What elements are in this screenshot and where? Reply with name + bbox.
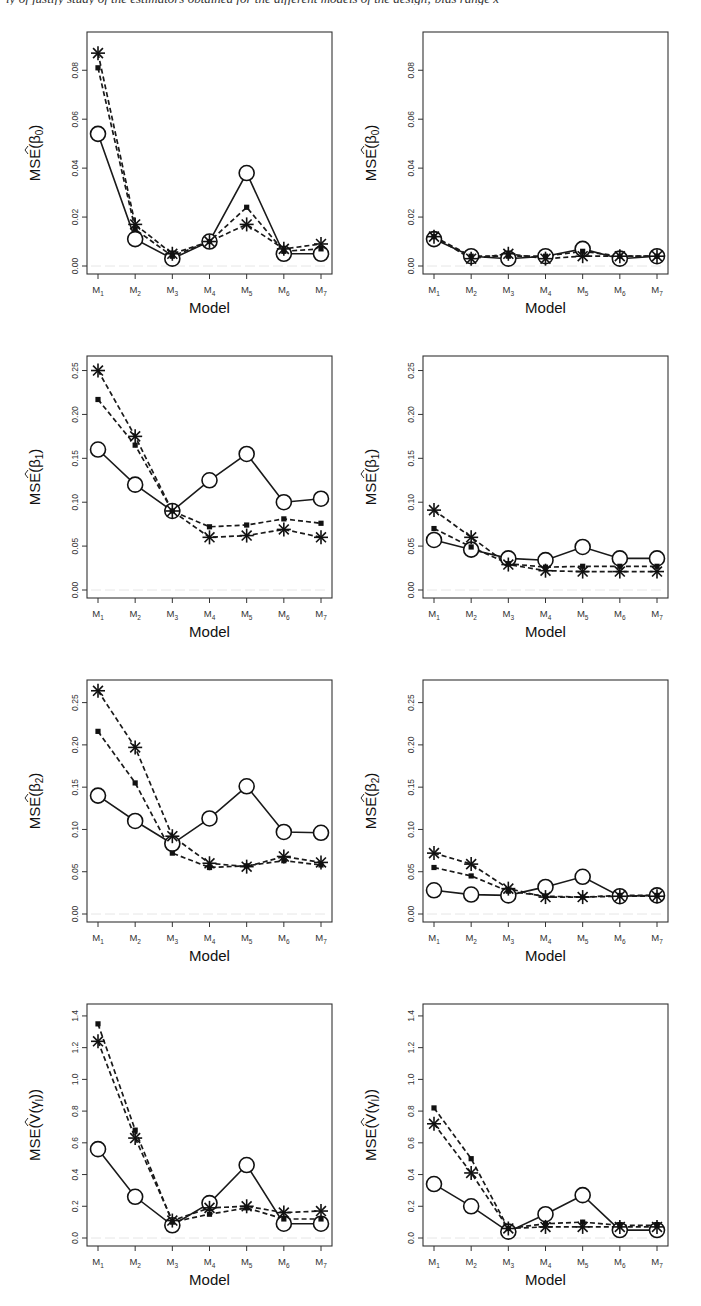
y-tick-label: 1.4 <box>70 1010 80 1022</box>
x-tick-label: M1 <box>92 1256 104 1269</box>
x-axis-title: Model <box>525 623 566 640</box>
asterisk-marker-icon <box>613 1220 627 1234</box>
y-tick-label: 0.20 <box>70 736 80 753</box>
circle-marker-icon <box>314 491 329 506</box>
square-marker-icon <box>244 205 249 210</box>
circle-marker-icon <box>276 824 291 839</box>
y-axis-title: MSE(β0) <box>26 125 45 182</box>
y-tick-label: 0.15 <box>406 779 416 796</box>
line-chart: 0.000.050.100.150.200.25M1M2M3M4M5M6M7Mo… <box>346 664 686 982</box>
x-axis: M1M2M3M4M5M6M7 <box>428 598 663 621</box>
y-tick-label: 0.05 <box>70 538 80 555</box>
x-tick-label: M3 <box>167 1256 179 1269</box>
y-tick-label: 1.0 <box>70 1073 80 1085</box>
y-tick-label: 0.15 <box>406 450 416 467</box>
markers-circle-solid <box>91 442 329 518</box>
y-axis: 0.000.050.100.150.200.25 <box>406 694 423 922</box>
x-tick-label: M4 <box>540 1256 552 1269</box>
circle-marker-icon <box>464 1199 479 1214</box>
line-chart: 0.00.20.40.60.81.01.21.4M1M2M3M4M5M6M7Mo… <box>10 988 350 1306</box>
y-tick-label: 1.4 <box>406 1010 416 1022</box>
x-tick-label: M5 <box>577 608 589 621</box>
y-axis: 0.00.20.40.60.81.01.21.4 <box>406 1010 423 1244</box>
circle-marker-icon <box>239 166 254 181</box>
x-tick-label: M6 <box>614 1256 626 1269</box>
line-chart: 0.000.020.040.060.08M1M2M3M4M5M6M7ModelM… <box>346 16 686 334</box>
panel-beta0-right: 0.000.020.040.060.08M1M2M3M4M5M6M7ModelM… <box>346 16 686 334</box>
x-tick-label: M6 <box>614 284 626 297</box>
markers-circle-solid <box>91 1142 329 1233</box>
y-tick-label: 0.0 <box>70 1232 80 1244</box>
asterisk-marker-icon <box>203 1201 217 1215</box>
x-tick-label: M7 <box>315 608 327 621</box>
asterisk-marker-icon <box>427 230 441 244</box>
x-tick-label: M3 <box>167 284 179 297</box>
asterisk-marker-icon <box>240 217 254 231</box>
asterisk-marker-icon <box>576 890 590 904</box>
circle-marker-icon <box>91 788 106 803</box>
asterisk-marker-icon <box>91 364 105 378</box>
x-tick-label: M1 <box>92 932 104 945</box>
y-tick-label: 0.25 <box>406 362 416 379</box>
square-marker-icon <box>469 544 474 549</box>
x-tick-label: M7 <box>651 932 663 945</box>
x-tick-label: M3 <box>167 932 179 945</box>
x-axis-title: Model <box>189 1271 230 1288</box>
asterisk-marker-icon <box>165 504 179 518</box>
x-tick-label: M2 <box>465 608 477 621</box>
x-tick-label: M5 <box>241 284 253 297</box>
y-tick-label: 0.20 <box>406 406 416 423</box>
y-tick-label: 0.06 <box>70 111 80 128</box>
square-marker-icon <box>469 1156 474 1161</box>
x-tick-label: M1 <box>428 1256 440 1269</box>
circle-marker-icon <box>91 1142 106 1157</box>
line-chart: 0.00.20.40.60.81.01.21.4M1M2M3M4M5M6M7Mo… <box>346 988 686 1306</box>
y-tick-label: 0.00 <box>70 905 80 922</box>
y-tick-label: 0.00 <box>70 581 80 598</box>
circle-marker-icon <box>427 1177 442 1192</box>
circle-marker-icon <box>650 551 665 566</box>
y-tick-label: 0.05 <box>406 863 416 880</box>
asterisk-marker-icon <box>464 252 478 266</box>
y-tick-label: 1.2 <box>406 1041 416 1053</box>
y-tick-label: 0.4 <box>406 1168 416 1180</box>
asterisk-marker-icon <box>165 247 179 261</box>
markers-asterisk-dashed <box>427 503 664 578</box>
circle-marker-icon <box>314 825 329 840</box>
asterisk-marker-icon <box>501 247 515 261</box>
x-tick-label: M2 <box>465 932 477 945</box>
y-tick-label: 0.15 <box>70 450 80 467</box>
x-tick-label: M7 <box>651 1256 663 1269</box>
asterisk-marker-icon <box>203 530 217 544</box>
asterisk-marker-icon <box>128 740 142 754</box>
circle-marker-icon <box>464 542 479 557</box>
y-tick-label: 0.8 <box>406 1105 416 1117</box>
x-axis-title: Model <box>525 299 566 316</box>
y-axis: 0.000.050.100.150.200.25 <box>70 362 87 598</box>
x-tick-label: M5 <box>577 1256 589 1269</box>
asterisk-marker-icon <box>613 565 627 579</box>
figure-grid: 0.000.020.040.060.08M1M2M3M4M5M6M7ModelM… <box>0 0 701 1306</box>
square-marker-icon <box>95 65 100 70</box>
panel-vgamma-right: 0.00.20.40.60.81.01.21.4M1M2M3M4M5M6M7Mo… <box>346 988 686 1306</box>
x-tick-label: M7 <box>315 1256 327 1269</box>
x-axis: M1M2M3M4M5M6M7 <box>428 922 663 945</box>
x-tick-label: M5 <box>577 284 589 297</box>
circle-marker-icon <box>612 551 627 566</box>
asterisk-marker-icon <box>464 1166 478 1180</box>
x-tick-label: M5 <box>577 932 589 945</box>
y-tick-label: 0.2 <box>406 1200 416 1212</box>
y-tick-label: 0.00 <box>406 905 416 922</box>
circle-marker-icon <box>239 779 254 794</box>
y-tick-label: 0.04 <box>70 160 80 177</box>
x-tick-label: M3 <box>503 932 515 945</box>
x-tick-label: M4 <box>204 608 216 621</box>
x-tick-label: M3 <box>503 284 515 297</box>
x-tick-label: M6 <box>278 608 290 621</box>
asterisk-marker-icon <box>464 530 478 544</box>
y-tick-label: 0.6 <box>70 1137 80 1149</box>
x-tick-label: M2 <box>129 932 141 945</box>
panel-beta1-left: 0.000.050.100.150.200.25M1M2M3M4M5M6M7Mo… <box>10 340 350 658</box>
asterisk-marker-icon <box>650 249 664 263</box>
asterisk-marker-icon <box>539 890 553 904</box>
